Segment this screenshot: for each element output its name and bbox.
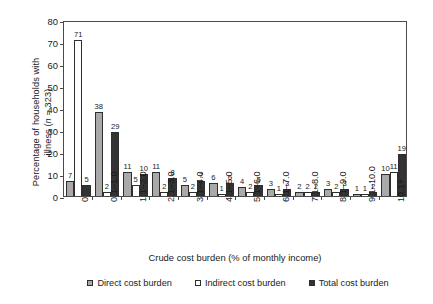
x-axis-tick-label: 1.1–2.0 [139,202,170,246]
bar-value-label: 3 [269,180,273,188]
x-axis-tick-mark [293,196,294,200]
x-axis-tick-mark [121,196,122,200]
bar-chart-figure: Percentage of households with illness (n… [0,0,433,304]
y-axis-tick-label: 80 [30,17,58,26]
bar-value-label: 11 [124,163,132,171]
y-axis-title: Percentage of households with illness (n… [0,0,34,245]
bar-value-label: 5 [183,176,187,184]
x-axis-tick-label: 7.1–8.0 [311,202,342,246]
y-axis-tick-label: 70 [30,39,58,48]
plot-inner: 0102030405060708077153822911510112852761… [64,22,406,196]
bar-direct[interactable]: 11 [123,172,131,196]
legend-swatch-icon [195,280,201,286]
legend-swatch-icon [87,280,93,286]
bar-direct[interactable]: 2 [295,192,303,196]
legend-item[interactable]: Total cost burden [309,278,389,288]
bar-value-label: 1 [355,185,359,193]
bar-direct[interactable]: 7 [66,181,74,196]
bar-direct[interactable]: 5 [181,185,189,196]
bar-group-bars: 425 [236,22,265,196]
bar-group-bars: 313 [265,22,294,196]
bar-value-label: 2 [297,183,301,191]
bar-direct[interactable]: 1 [353,194,361,196]
x-axis-tick-label: 10.1+ [397,202,420,246]
bar-direct[interactable]: 4 [238,187,246,196]
x-axis-tick-label: 6.1–7.0 [282,202,313,246]
bar-direct[interactable]: 3 [267,189,275,196]
x-axis-tick-label: 0 [81,202,86,246]
bar-value-label: 4 [240,178,244,186]
x-axis-tick-mark [92,196,93,200]
bar-value-label: 3 [326,180,330,188]
bar-total[interactable]: 5 [82,185,90,196]
x-axis-tick-label: 3.1–4.0 [196,202,227,246]
bar-value-label: 11 [152,163,160,171]
legend-label: Direct cost burden [97,278,172,288]
x-axis-tick-mark [149,196,150,200]
bar-group-bars: 222 [293,22,322,196]
bar-group: 616 [207,22,236,196]
bar-group: 11510 [121,22,150,196]
bar-group: 425 [236,22,265,196]
bar-group-bars: 527 [179,22,208,196]
y-axis-tick-mark [60,198,64,199]
bar-group: 527 [179,22,208,196]
x-axis-title: Crude cost burden (% of monthly income) [63,252,407,263]
legend-swatch-icon [309,280,315,286]
bar-group-bars: 11510 [121,22,150,196]
bar-value-label: 19 [398,145,406,153]
bar-group-bars: 616 [207,22,236,196]
x-axis-tick-mark [178,196,179,200]
x-axis-tick-mark [350,196,351,200]
bar-group-bars: 38229 [93,22,122,196]
y-axis-tick-label: 20 [30,149,58,158]
bar-value-label: 10 [381,165,389,173]
bar-group-bars: 323 [322,22,351,196]
legend-item[interactable]: Indirect cost burden [195,278,286,288]
bar-group: 38229 [93,22,122,196]
bar-group: 1128 [150,22,179,196]
bar-value-label: 6 [211,174,215,182]
bar-value-label: 71 [74,31,82,39]
x-axis-tick-mark [379,196,380,200]
bar-value-label: 5 [84,176,88,184]
x-axis-tick-mark [207,196,208,200]
x-axis-tick-mark [321,196,322,200]
y-axis-tick-label: 30 [30,127,58,136]
bar-group-bars: 101119 [379,22,408,196]
bar-value-label: 29 [111,123,119,131]
y-axis-tick-label: 40 [30,105,58,114]
y-axis-tick-label: 50 [30,83,58,92]
bar-group-bars: 1128 [150,22,179,196]
bar-direct[interactable]: 10 [381,174,389,196]
bar-group: 323 [322,22,351,196]
legend-label: Total cost burden [319,278,389,288]
x-axis-tick-label: 4.1–5.0 [225,202,256,246]
y-axis-tick-label: 10 [30,171,58,180]
bar-group: 313 [265,22,294,196]
y-axis-tick-label: 0 [30,193,58,202]
x-axis-tick-label: 5.1–6.0 [253,202,284,246]
x-axis-tick-mark [235,196,236,200]
legend-item[interactable]: Direct cost burden [87,278,172,288]
bar-value-label: 38 [95,103,103,111]
bar-value-label: 11 [390,163,398,171]
x-axis-tick-label: 2.1–3.0 [167,202,198,246]
y-axis-tick-label: 60 [30,61,58,70]
bar-value-label: 7 [68,172,72,180]
chart-legend: Direct cost burdenIndirect cost burdenTo… [63,278,413,288]
legend-label: Indirect cost burden [205,278,286,288]
bar-group: 101119 [379,22,408,196]
bar-direct[interactable]: 3 [324,189,332,196]
bar-direct[interactable]: 38 [95,112,103,196]
bar-group-bars: 7715 [64,22,93,196]
y-axis-title-line1: Percentage of households with [31,58,41,187]
bar-direct[interactable]: 11 [152,172,160,196]
x-axis-tick-label: 8.1–9.0 [339,202,370,246]
x-axis-tick-label: 0.1–1.0 [110,202,141,246]
bar-direct[interactable]: 6 [209,183,217,196]
bar-group: 7715 [64,22,93,196]
bar-group: 222 [293,22,322,196]
x-axis-tick-mark [264,196,265,200]
bar-indirect[interactable]: 71 [74,40,82,196]
